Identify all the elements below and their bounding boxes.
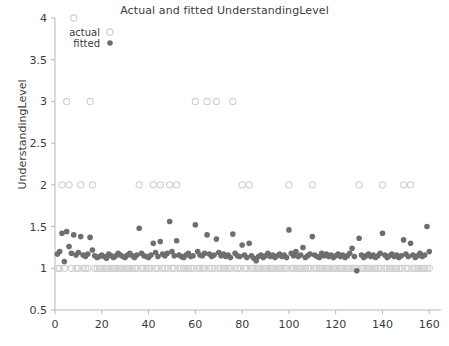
x-tick-label: 0 — [52, 318, 59, 331]
data-point-fitted — [66, 244, 72, 250]
data-point-fitted — [307, 251, 313, 257]
data-point-actual — [87, 98, 93, 104]
scatter-plot: 0.511.522.533.54020406080100120140160act… — [0, 0, 449, 346]
data-point-actual — [230, 98, 236, 104]
data-point-fitted — [310, 234, 316, 240]
data-point-fitted — [228, 255, 234, 261]
data-point-fitted — [202, 250, 208, 256]
data-point-fitted — [136, 225, 142, 231]
x-tick-label: 60 — [188, 318, 202, 331]
data-point-fitted — [157, 239, 163, 245]
data-point-actual — [61, 265, 67, 271]
data-point-fitted — [380, 230, 386, 236]
data-point-fitted — [286, 227, 292, 233]
data-point-fitted — [293, 249, 299, 255]
data-point-fitted — [167, 219, 173, 225]
data-point-actual — [213, 98, 219, 104]
data-point-fitted — [354, 268, 360, 274]
data-point-actual — [66, 182, 72, 188]
data-point-actual — [379, 182, 385, 188]
data-point-fitted — [352, 254, 358, 260]
data-point-actual — [78, 182, 84, 188]
data-point-fitted — [172, 253, 178, 259]
legend-label-actual: actual — [69, 27, 100, 38]
y-tick-label: 3.5 — [30, 54, 48, 67]
data-point-fitted — [408, 240, 414, 246]
data-point-actual — [204, 98, 210, 104]
chart-root: Actual and fitted UnderstandingLevel Und… — [0, 0, 449, 346]
series-actual — [54, 15, 432, 271]
x-tick-label: 80 — [235, 318, 249, 331]
data-point-fitted — [62, 259, 68, 265]
data-point-fitted — [356, 235, 362, 241]
data-point-fitted — [230, 231, 236, 237]
data-point-actual — [174, 182, 180, 188]
data-point-actual — [286, 182, 292, 188]
data-point-actual — [64, 98, 70, 104]
y-tick-label: 1 — [40, 262, 47, 275]
data-point-fitted — [401, 237, 407, 243]
data-point-fitted — [424, 224, 430, 230]
x-tick-label: 120 — [325, 318, 346, 331]
y-tick-label: 1.5 — [30, 221, 48, 234]
data-point-fitted — [64, 229, 70, 235]
data-point-fitted — [300, 245, 306, 251]
data-point-fitted — [78, 234, 84, 240]
legend: actualfitted — [69, 27, 113, 49]
data-point-actual — [192, 98, 198, 104]
data-point-fitted — [71, 232, 77, 238]
data-point-fitted — [349, 245, 355, 251]
data-point-actual — [59, 182, 65, 188]
legend-marker-actual — [107, 29, 113, 35]
data-point-fitted — [57, 249, 63, 255]
data-point-actual — [400, 182, 406, 188]
data-point-fitted — [422, 252, 428, 258]
data-point-actual — [246, 182, 252, 188]
y-tick-label: 2 — [40, 179, 47, 192]
data-point-fitted — [150, 240, 156, 246]
data-point-fitted — [246, 240, 252, 246]
data-point-actual — [356, 182, 362, 188]
data-point-fitted — [87, 235, 93, 241]
x-tick-label: 160 — [419, 318, 440, 331]
y-tick-label: 2.5 — [30, 137, 48, 150]
data-point-actual — [407, 182, 413, 188]
x-tick-label: 20 — [95, 318, 109, 331]
data-point-actual — [157, 182, 163, 188]
y-tick-label: 3 — [40, 95, 47, 108]
data-point-actual — [150, 182, 156, 188]
data-point-fitted — [85, 251, 91, 257]
data-point-fitted — [214, 236, 220, 242]
data-point-fitted — [347, 250, 353, 256]
legend-label-fitted: fitted — [73, 38, 100, 49]
data-point-actual — [89, 182, 95, 188]
legend-marker-fitted — [107, 40, 113, 46]
data-point-fitted — [193, 222, 199, 228]
x-tick-label: 140 — [372, 318, 393, 331]
data-point-fitted — [190, 253, 196, 259]
x-tick-label: 100 — [278, 318, 299, 331]
x-tick-label: 40 — [142, 318, 156, 331]
data-point-actual — [309, 182, 315, 188]
data-point-actual — [136, 182, 142, 188]
data-point-fitted — [239, 242, 245, 248]
data-point-actual — [71, 15, 77, 21]
data-point-fitted — [174, 238, 180, 244]
data-point-fitted — [90, 247, 96, 253]
data-point-actual — [239, 182, 245, 188]
data-point-fitted — [204, 232, 210, 238]
y-tick-label: 4 — [40, 12, 47, 25]
data-point-fitted — [427, 249, 433, 255]
data-point-actual — [167, 182, 173, 188]
y-tick-label: 0.5 — [30, 304, 48, 317]
data-point-fitted — [284, 255, 290, 261]
